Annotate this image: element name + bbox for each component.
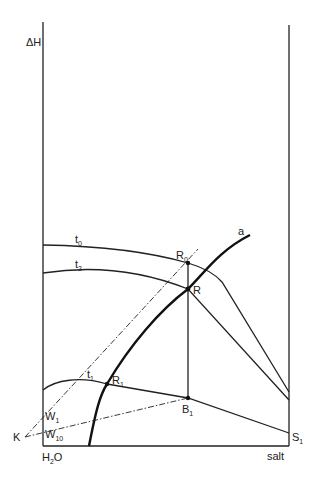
y-axis-label: ΔH (26, 36, 41, 48)
enthalpy-concentration-diagram: ΔH t0 t2 t1 a R0 R R1 B1 S1 W1 W10 K H2O… (0, 0, 319, 479)
label-r1: R1 (112, 374, 124, 388)
label-a: a (238, 225, 245, 237)
construction-line-k-r0 (25, 249, 198, 437)
label-w10: W10 (45, 428, 63, 442)
x-axis-label-h2o: H2O (42, 451, 63, 465)
label-t1: t1 (87, 368, 94, 382)
point-b1 (186, 396, 190, 400)
label-w1: W1 (45, 410, 59, 424)
x-axis-label-salt: salt (267, 450, 284, 462)
point-r (186, 287, 191, 292)
isotherm-t2 (43, 270, 289, 400)
label-k: K (13, 431, 21, 443)
label-r0: R0 (176, 249, 188, 263)
label-t2: t2 (75, 258, 82, 272)
isotherm-t1 (43, 380, 289, 433)
label-s1: S1 (292, 431, 303, 445)
point-r1 (105, 382, 109, 386)
label-r: R (193, 284, 201, 296)
label-b1: B1 (182, 403, 193, 417)
label-t0: t0 (75, 233, 82, 247)
saturation-curve-a (89, 235, 250, 446)
